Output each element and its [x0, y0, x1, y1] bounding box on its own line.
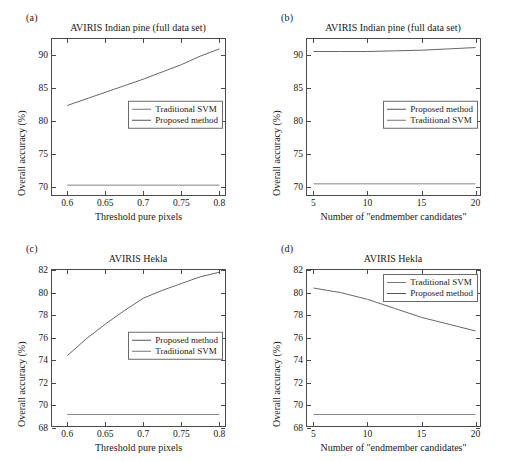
- legend-item: Traditional SVM: [132, 104, 218, 115]
- x-tick-label: 0.8: [213, 429, 225, 439]
- x-tick-label: 5: [311, 198, 316, 208]
- y-tick-label: 76: [294, 333, 304, 343]
- y-tick-label: 72: [39, 378, 49, 388]
- panel-b-ylabel: Overall accuracy (%): [271, 111, 282, 197]
- y-tick-label: 75: [39, 149, 49, 159]
- x-tick-label: 0.6: [61, 198, 73, 208]
- panel-c: (c) AVIRIS Hekla 68707274767880820.60.65…: [0, 231, 254, 461]
- y-tick-label: 68: [294, 423, 304, 433]
- legend-item: Proposed method: [132, 115, 218, 126]
- panel-a-ylabel: Overall accuracy (%): [16, 111, 27, 197]
- y-tick-label: 90: [39, 50, 49, 60]
- legend-item: Proposed method: [132, 335, 218, 346]
- legend-line-icon: [387, 293, 406, 294]
- x-tick-label: 0.65: [97, 198, 114, 208]
- x-tick-label: 10: [363, 198, 373, 208]
- y-tick-label: 90: [294, 50, 304, 60]
- y-tick-label: 78: [39, 310, 49, 320]
- panel-c-plot-area: 68707274767880820.60.650.70.750.8Propose…: [51, 269, 226, 427]
- y-tick-label: 68: [39, 423, 49, 433]
- panel-b: (b) AVIRIS Indian pine (full data set) 7…: [255, 0, 509, 230]
- y-tick-label: 70: [39, 182, 49, 192]
- panel-c-ylabel: Overall accuracy (%): [16, 342, 27, 428]
- legend-item-label: Proposed method: [410, 104, 473, 115]
- legend-item-label: Proposed method: [155, 115, 218, 126]
- y-tick-label: 80: [39, 288, 49, 298]
- y-tick-label: 75: [294, 149, 304, 159]
- y-tick-label: 76: [39, 333, 49, 343]
- legend-item: Proposed method: [387, 288, 473, 299]
- y-tick-label: 70: [39, 400, 49, 410]
- legend-line-icon: [387, 120, 406, 121]
- legend[interactable]: Traditional SVMProposed method: [383, 274, 478, 302]
- panel-a-xlabel: Threshold pure pixels: [51, 211, 226, 222]
- series-line: [313, 48, 475, 52]
- legend-line-icon: [132, 351, 151, 352]
- figure-root: (a) AVIRIS Indian pine (full data set) 7…: [0, 0, 509, 461]
- y-tick-label: 80: [294, 116, 304, 126]
- x-tick-label: 10: [363, 429, 373, 439]
- x-tick-label: 15: [417, 198, 427, 208]
- x-tick-label: 0.65: [97, 429, 114, 439]
- panel-a: (a) AVIRIS Indian pine (full data set) 7…: [0, 0, 254, 230]
- y-tick-label: 80: [294, 288, 304, 298]
- legend[interactable]: Proposed methodTraditional SVM: [383, 101, 478, 129]
- legend-item: Traditional SVM: [387, 115, 473, 126]
- legend-line-icon: [132, 109, 151, 110]
- legend-item-label: Traditional SVM: [410, 115, 471, 126]
- x-tick-label: 0.75: [173, 198, 190, 208]
- x-tick-label: 20: [471, 198, 481, 208]
- legend[interactable]: Traditional SVMProposed method: [128, 101, 223, 129]
- panel-d-title: AVIRIS Hekla: [255, 253, 509, 264]
- y-tick-label: 70: [294, 182, 304, 192]
- panel-b-xlabel: Number of "endmember candidates": [306, 211, 481, 222]
- y-tick-label: 80: [39, 116, 49, 126]
- y-tick-label: 70: [294, 400, 304, 410]
- legend-item-label: Traditional SVM: [155, 104, 216, 115]
- legend-line-icon: [132, 340, 151, 341]
- series-line: [67, 49, 219, 106]
- panel-d: (d) AVIRIS Hekla 68707274767880825101520…: [255, 231, 509, 461]
- panel-d-plot-area: 68707274767880825101520Traditional SVMPr…: [306, 269, 481, 427]
- legend-line-icon: [387, 109, 406, 110]
- y-tick-label: 85: [39, 83, 49, 93]
- legend-line-icon: [387, 282, 406, 283]
- legend-line-icon: [132, 120, 151, 121]
- legend-item-label: Traditional SVM: [155, 346, 216, 357]
- legend-item: Traditional SVM: [132, 346, 218, 357]
- y-tick-label: 82: [294, 265, 304, 275]
- panel-b-title: AVIRIS Indian pine (full data set): [255, 22, 509, 33]
- x-tick-label: 15: [417, 429, 427, 439]
- x-tick-label: 0.8: [213, 198, 225, 208]
- x-tick-label: 0.7: [137, 198, 149, 208]
- x-tick-label: 0.75: [173, 429, 190, 439]
- y-tick-label: 74: [294, 355, 304, 365]
- x-tick-label: 20: [471, 429, 481, 439]
- panel-c-xlabel: Threshold pure pixels: [51, 442, 226, 453]
- legend-item: Proposed method: [387, 104, 473, 115]
- x-tick-label: 0.6: [61, 429, 73, 439]
- legend-item-label: Proposed method: [410, 288, 473, 299]
- legend[interactable]: Proposed methodTraditional SVM: [128, 332, 223, 360]
- y-tick-label: 72: [294, 378, 304, 388]
- panel-b-plot-area: 70758085905101520Proposed methodTraditio…: [306, 38, 481, 196]
- panel-a-plot-area: 70758085900.60.650.70.750.8Traditional S…: [51, 38, 226, 196]
- legend-item-label: Proposed method: [155, 335, 218, 346]
- panel-a-title: AVIRIS Indian pine (full data set): [0, 22, 254, 33]
- x-tick-label: 0.7: [137, 429, 149, 439]
- y-tick-label: 78: [294, 310, 304, 320]
- y-tick-mark: [52, 428, 56, 429]
- legend-item: Traditional SVM: [387, 277, 473, 288]
- panel-d-ylabel: Overall accuracy (%): [271, 342, 282, 428]
- legend-item-label: Traditional SVM: [410, 277, 471, 288]
- y-tick-label: 85: [294, 83, 304, 93]
- y-tick-label: 82: [39, 265, 49, 275]
- panel-c-title: AVIRIS Hekla: [0, 253, 254, 264]
- y-tick-label: 74: [39, 355, 49, 365]
- x-tick-label: 5: [311, 429, 316, 439]
- panel-d-xlabel: Number of "endmember candidates": [306, 442, 481, 453]
